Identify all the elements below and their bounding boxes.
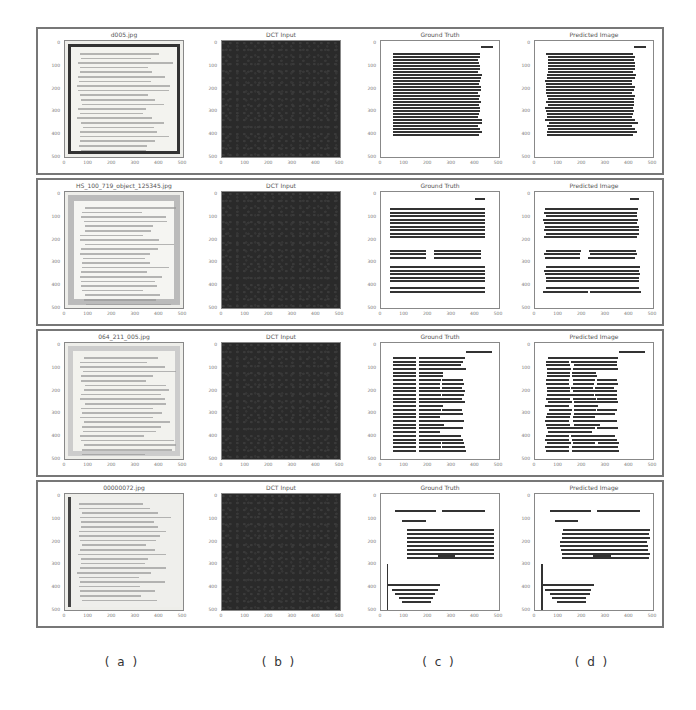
x-tick-label: 500 [178,613,187,618]
y-tick-label: 300 [367,108,376,113]
x-tick-label: 400 [470,160,479,165]
y-tick-label: 200 [208,236,217,241]
panel-title: Ground Truth [380,333,500,340]
x-tick-label: 100 [553,613,562,618]
panel-pred: Predicted Image0100200300400500010020030… [508,29,663,173]
dct-input-image [221,191,341,309]
x-tick-label: 0 [533,613,536,618]
ground-truth-mask [380,342,500,460]
x-tick-label: 100 [83,160,92,165]
panel-title: DCT Input [221,333,341,340]
y-tick-label: 400 [51,131,60,136]
x-axis-ticks: 0100200300400500 [221,613,341,621]
panel-title: Ground Truth [380,182,500,189]
predicted-mask [534,493,654,611]
input-document-image [64,40,184,158]
y-axis-ticks: 0100200300400500 [358,493,378,611]
x-tick-label: 500 [178,160,187,165]
y-tick-label: 200 [51,538,60,543]
panel-title: HS_100_719_object_125345.jpg [64,182,184,189]
x-tick-label: 500 [178,311,187,316]
x-tick-label: 300 [447,311,456,316]
x-axis-ticks: 0100200300400500 [534,462,654,470]
y-tick-label: 200 [51,236,60,241]
x-tick-label: 400 [624,613,633,618]
x-tick-label: 200 [423,613,432,618]
y-tick-label: 300 [521,561,530,566]
y-tick-label: 0 [214,493,217,498]
y-tick-label: 300 [367,410,376,415]
x-tick-label: 100 [553,311,562,316]
panel-input: 064_211_005.jpg0100200300400500010020030… [38,331,193,475]
x-tick-label: 300 [601,613,610,618]
y-tick-label: 500 [521,456,530,461]
x-tick-label: 100 [240,462,249,467]
y-tick-label: 0 [527,191,530,196]
y-axis-ticks: 0100200300400500 [199,342,219,460]
y-tick-label: 100 [521,515,530,520]
y-tick-label: 500 [367,154,376,159]
y-axis-ticks: 0100200300400500 [358,191,378,309]
x-tick-label: 500 [335,160,344,165]
y-tick-label: 300 [51,108,60,113]
x-tick-label: 500 [648,462,657,467]
y-tick-label: 300 [51,561,60,566]
y-tick-label: 300 [521,410,530,415]
x-tick-label: 500 [494,311,503,316]
y-tick-label: 400 [521,584,530,589]
y-tick-label: 200 [367,236,376,241]
y-tick-label: 400 [208,282,217,287]
y-tick-label: 300 [367,259,376,264]
caption-c: ( c ) [422,655,456,669]
y-tick-label: 200 [521,387,530,392]
x-tick-label: 100 [83,462,92,467]
y-tick-label: 100 [208,213,217,218]
y-tick-label: 200 [208,85,217,90]
panel-title: Ground Truth [380,31,500,38]
x-tick-label: 300 [447,613,456,618]
y-tick-label: 500 [521,154,530,159]
figure-row-3: 064_211_005.jpg0100200300400500010020030… [36,329,664,477]
x-tick-label: 400 [311,311,320,316]
y-axis-ticks: 0100200300400500 [42,493,62,611]
x-axis-ticks: 0100200300400500 [64,160,184,168]
y-tick-label: 100 [51,213,60,218]
input-document-image [64,342,184,460]
panel-title: 00000072.jpg [64,484,184,491]
x-tick-label: 500 [335,462,344,467]
panel-title: Predicted Image [534,182,654,189]
x-tick-label: 500 [648,613,657,618]
y-tick-label: 400 [367,584,376,589]
x-tick-label: 200 [107,613,116,618]
column-captions: ( a ) ( b ) ( c ) ( d ) [36,655,666,675]
y-tick-label: 500 [208,456,217,461]
x-tick-label: 0 [533,311,536,316]
x-tick-label: 200 [264,462,273,467]
panel-title: DCT Input [221,31,341,38]
y-tick-label: 100 [51,515,60,520]
y-tick-label: 100 [51,62,60,67]
y-tick-label: 0 [373,191,376,196]
predicted-mask [534,191,654,309]
y-tick-label: 0 [57,40,60,45]
x-tick-label: 0 [379,311,382,316]
x-axis-ticks: 0100200300400500 [534,613,654,621]
y-tick-label: 100 [367,364,376,369]
y-tick-label: 0 [214,342,217,347]
x-tick-label: 200 [423,160,432,165]
x-tick-label: 100 [83,613,92,618]
x-tick-label: 0 [63,613,66,618]
x-tick-label: 500 [335,311,344,316]
x-tick-label: 500 [494,613,503,618]
panel-input: 00000072.jpg0100200300400500010020030040… [38,482,193,626]
x-tick-label: 400 [154,160,163,165]
panel-title: Predicted Image [534,484,654,491]
x-tick-label: 300 [288,160,297,165]
y-tick-label: 100 [208,364,217,369]
x-tick-label: 400 [154,462,163,467]
panel-pred: Predicted Image0100200300400500010020030… [508,482,663,626]
x-axis-ticks: 0100200300400500 [221,462,341,470]
x-tick-label: 400 [154,613,163,618]
x-tick-label: 100 [83,311,92,316]
x-tick-label: 0 [63,160,66,165]
